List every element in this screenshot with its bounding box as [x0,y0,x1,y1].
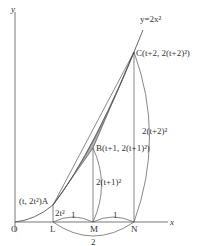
length-ln-label: 2 [91,237,96,246]
point-m-label: M [90,224,98,234]
parabola-diagram: y x y=2x² C(t+2, 2(t+2)²) B(t+1, 2(t+1)²… [0,0,210,246]
point-l-label: L [50,224,56,234]
arc-CN [134,52,150,222]
length-lm-label: 1 [71,210,76,220]
origin-label: O [11,224,18,234]
length-cn-label: 2(t+2)² [142,126,168,136]
parabola-curve [15,30,143,222]
point-a-label: (t, 2t²)A [19,196,49,206]
y-axis-label: y [10,4,15,14]
length-mn-label: 1 [113,210,118,220]
point-n-label: N [131,224,138,234]
length-bm-label: 2(t+1)² [96,177,122,187]
length-al-label: 2t² [55,208,65,218]
point-c-label: C(t+2, 2(t+2)²) [136,48,190,58]
segment-AC [53,52,134,205]
point-b-label: B(t+1, 2(t+1)²) [96,143,150,153]
x-axis-label: x [169,217,174,227]
curve-label: y=2x² [140,14,162,24]
